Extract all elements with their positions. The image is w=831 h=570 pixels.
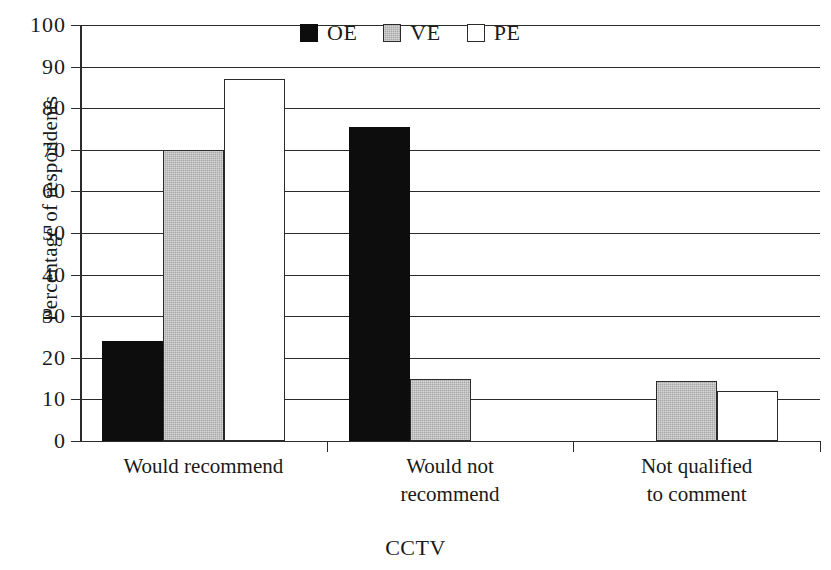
y-tick-label: 90 (4, 55, 66, 77)
y-tick-mark (71, 191, 81, 192)
x-tick-label-line2: to comment (573, 480, 820, 508)
y-tick-label: 60 (4, 180, 66, 202)
x-category-separator (573, 441, 574, 452)
bar-pe-group-3 (717, 391, 778, 441)
y-tick-label: 0 (4, 430, 66, 452)
y-tick-label: 100 (4, 14, 66, 36)
y-tick-label: 50 (4, 222, 66, 244)
legend-label: VE (410, 22, 440, 44)
y-tick-mark (71, 67, 81, 68)
x-tick-label: Not qualifiedto comment (573, 452, 820, 509)
y-tick-mark (71, 358, 81, 359)
y-tick-mark (71, 399, 81, 400)
gridline (80, 67, 820, 68)
y-tick-mark (71, 150, 81, 151)
y-axis-tick-labels: 0102030405060708090100 (0, 25, 66, 441)
x-tick-label-line2: recommend (327, 480, 574, 508)
y-tick-mark (71, 108, 81, 109)
y-tick-label: 10 (4, 388, 66, 410)
legend-label: OE (327, 22, 357, 44)
gridline (80, 108, 820, 109)
y-tick-label: 80 (4, 97, 66, 119)
gridline (80, 441, 820, 442)
y-tick-label: 30 (4, 305, 66, 327)
y-tick-label: 70 (4, 138, 66, 160)
y-tick-mark (71, 441, 81, 442)
x-axis-title: CCTV (0, 535, 831, 561)
x-axis-end-tick (820, 441, 821, 452)
y-tick-mark (71, 233, 81, 234)
y-tick-mark (71, 316, 81, 317)
legend-label: PE (494, 22, 521, 44)
legend-item-oe[interactable]: OE (300, 22, 357, 44)
y-tick-mark (71, 25, 81, 26)
legend-item-pe[interactable]: PE (467, 22, 521, 44)
x-tick-label: Would recommend (80, 452, 327, 480)
x-tick-label-line1: Would not (327, 452, 574, 480)
x-category-separator (327, 441, 328, 452)
bar-ve-group-2 (410, 379, 471, 441)
bar-oe-group-1 (102, 341, 163, 441)
x-tick-label-line1: Would recommend (80, 452, 327, 480)
legend-swatch-white-icon (467, 24, 485, 42)
plot-area (80, 25, 820, 441)
bar-pe-group-1 (224, 79, 285, 441)
bar-oe-group-2 (349, 127, 410, 441)
legend-swatch-gray-icon (383, 24, 401, 42)
chart-legend: OEVEPE (300, 22, 520, 44)
y-tick-label: 40 (4, 263, 66, 285)
x-tick-label: Would notrecommend (327, 452, 574, 509)
y-tick-mark (71, 275, 81, 276)
x-tick-label-line1: Not qualified (573, 452, 820, 480)
legend-item-ve[interactable]: VE (383, 22, 440, 44)
bar-ve-group-1 (163, 150, 224, 441)
bar-ve-group-3 (656, 381, 717, 441)
legend-swatch-black-icon (300, 24, 318, 42)
chart-figure: Percentage of respondents 01020304050607… (0, 0, 831, 570)
y-tick-label: 20 (4, 346, 66, 368)
